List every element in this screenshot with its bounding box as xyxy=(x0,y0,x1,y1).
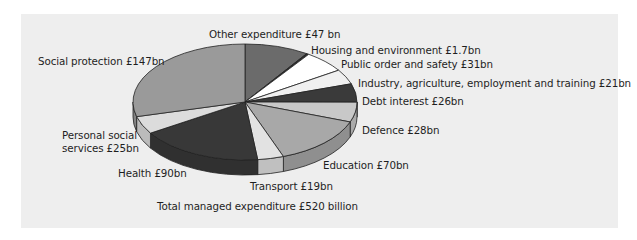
label-personal-social-line2: services £25bn xyxy=(62,142,139,155)
label-personal-social-line1: Personal social xyxy=(62,129,137,142)
label-total: Total managed expenditure £520 billion xyxy=(157,200,358,213)
label-defence: Defence £28bn xyxy=(362,124,439,137)
label-public-order: Public order and safety £31bn xyxy=(341,58,493,71)
label-social-protection: Social protection £147bn xyxy=(38,55,165,68)
label-debt-interest: Debt interest £26bn xyxy=(362,95,464,108)
label-other-expenditure: Other expenditure £47 bn xyxy=(209,28,340,41)
label-industry: Industry, agriculture, employment and tr… xyxy=(358,77,631,90)
label-education: Education £70bn xyxy=(323,159,409,172)
label-transport: Transport £19bn xyxy=(250,180,333,193)
label-housing: Housing and environment £1.7bn xyxy=(311,44,481,57)
label-health: Health £90bn xyxy=(118,167,187,180)
